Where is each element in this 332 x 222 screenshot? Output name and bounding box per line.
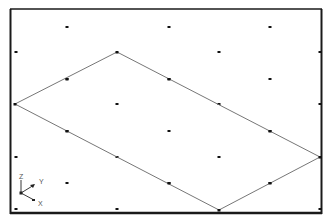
sketch-point[interactable] <box>319 156 322 159</box>
grid-dot <box>319 103 322 105</box>
x-axis-label: X <box>38 200 43 207</box>
grid-dot <box>218 156 221 158</box>
grid-dot <box>116 103 119 105</box>
sketch-point[interactable] <box>116 51 119 54</box>
grid-dot <box>66 182 69 184</box>
grid-dot <box>319 51 322 53</box>
grid-dot <box>218 51 221 53</box>
sketch-point[interactable] <box>168 78 171 81</box>
sketch-point[interactable] <box>66 78 69 81</box>
sketch-point[interactable] <box>269 182 272 185</box>
grid-dot <box>269 26 272 28</box>
sketch-point[interactable] <box>168 182 171 185</box>
grid-dot <box>319 208 322 210</box>
grid-dot <box>15 156 18 158</box>
sketch-point[interactable] <box>269 130 272 133</box>
z-axis-label: Z <box>19 173 24 180</box>
y-axis-label: Y <box>39 178 44 185</box>
grid-dot <box>66 26 69 28</box>
sketch-point[interactable] <box>14 103 17 106</box>
grid-dot <box>168 130 171 132</box>
viewport-background <box>0 0 332 222</box>
grid-dot <box>168 26 171 28</box>
grid-dot <box>15 51 18 53</box>
grid-dot <box>116 208 119 210</box>
sketch-point[interactable] <box>218 209 221 212</box>
sketch-point[interactable] <box>66 130 69 133</box>
grid-dot <box>269 78 272 80</box>
grid-dot <box>15 208 18 210</box>
triad-origin <box>20 192 23 195</box>
x-axis-tip <box>32 199 35 201</box>
3d-viewport[interactable]: Z Y X <box>0 0 332 222</box>
